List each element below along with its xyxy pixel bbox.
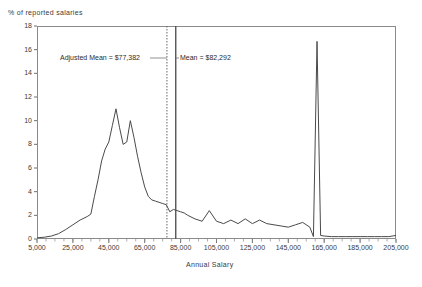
x-axis-title: Annual Salary (186, 261, 233, 268)
y-tick-label: 0 (10, 235, 32, 242)
y-tick-label: 4 (10, 188, 32, 195)
mean-label: Mean = $82,292 (180, 54, 231, 61)
y-tick-marks (34, 26, 37, 239)
y-tick-label: 2 (10, 211, 32, 218)
adjusted-mean-label: Adjusted Mean = $77,382 (60, 54, 140, 61)
y-tick-label: 14 (10, 69, 32, 76)
y-tick-label: 16 (10, 46, 32, 53)
series-line-salaries (37, 41, 396, 237)
y-tick-label: 8 (10, 140, 32, 147)
chart-container: % of reported salaries Adjusted Mean = $… (0, 0, 422, 287)
y-tick-label: 10 (10, 117, 32, 124)
y-tick-label: 18 (10, 22, 32, 29)
x-tick-label: 205,000 (374, 244, 418, 251)
y-tick-label: 12 (10, 93, 32, 100)
x-minor-tick-marks (37, 239, 396, 242)
y-tick-label: 6 (10, 164, 32, 171)
